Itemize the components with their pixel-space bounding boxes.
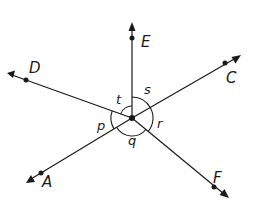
arc-r: [148, 108, 153, 132]
arc-p: [111, 111, 114, 129]
angle-label-r: r: [157, 116, 164, 131]
point-labels: E C F A D: [29, 33, 237, 191]
center-point: [129, 115, 135, 121]
angle-label-p: p: [96, 118, 105, 133]
angle-label-q: q: [128, 133, 136, 148]
point-E: [130, 36, 135, 41]
label-E: E: [141, 33, 151, 51]
angle-diagram: E C F A D s r q p t: [0, 0, 271, 213]
label-F: F: [213, 169, 222, 187]
ray-F: [132, 118, 224, 194]
arrowhead-E-icon: [129, 22, 136, 31]
arc-t: [121, 106, 132, 114]
arrowhead-A-icon: [26, 175, 35, 183]
angle-labels: s r q p t: [96, 82, 164, 148]
point-D: [24, 78, 29, 83]
arrowhead-C-icon: [232, 55, 242, 64]
label-A: A: [41, 173, 52, 191]
arrowhead-D-icon: [7, 71, 15, 79]
label-C: C: [226, 69, 237, 87]
angle-label-s: s: [144, 82, 151, 97]
ray-D: [12, 75, 132, 118]
angle-label-t: t: [116, 92, 122, 107]
point-C: [223, 61, 228, 66]
label-D: D: [29, 59, 41, 77]
arrowhead-F-icon: [220, 189, 230, 198]
arc-s: [132, 97, 150, 108]
rays: [12, 28, 236, 194]
points: [24, 36, 228, 190]
